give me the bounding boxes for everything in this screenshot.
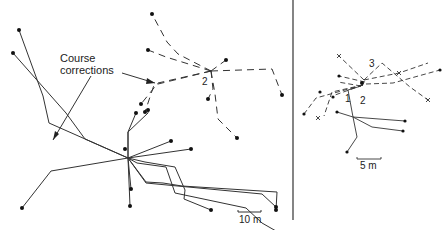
- trajectory-diagram: Course corrections 2 10 m 1 2 3 5 m: [0, 0, 444, 230]
- solid-trajectories: [13, 30, 277, 230]
- annotation-arrows: [53, 73, 155, 140]
- right-label-1: 1: [345, 93, 351, 104]
- endpoint-markers: [11, 12, 442, 212]
- release-point-label: 2: [202, 76, 208, 87]
- scale-label-10m: 10 m: [239, 214, 261, 225]
- right-label-2: 2: [360, 95, 366, 106]
- scale-label-5m: 5 m: [360, 160, 377, 171]
- figure: Course corrections 2 10 m 1 2 3 5 m: [0, 0, 444, 230]
- annotation-line2: corrections: [60, 64, 114, 76]
- right-label-3: 3: [369, 58, 375, 69]
- scale-bar-5m: [357, 157, 381, 159]
- annotation-line1: Course: [60, 52, 95, 64]
- dashed-trajectories: [141, 14, 282, 138]
